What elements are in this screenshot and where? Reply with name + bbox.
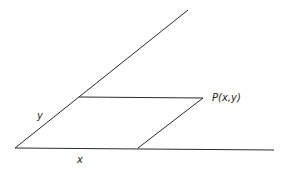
oblique-coordinates-diagram: P(x,y) y x [0, 0, 286, 170]
point-label: P(x,y) [212, 92, 241, 103]
parallel-to-x-line [79, 97, 203, 98]
x-axis [15, 148, 274, 150]
y-label: y [36, 110, 44, 121]
x-label: x [76, 154, 83, 165]
parallel-to-y-line [138, 98, 203, 148]
oblique-y-axis [15, 10, 188, 148]
